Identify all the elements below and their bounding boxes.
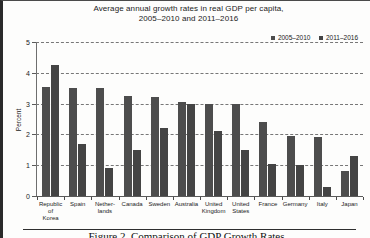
bar-groups: [37, 42, 363, 196]
bar-group: [64, 42, 91, 196]
x-axis-label-line-1: Germany: [283, 201, 308, 207]
y-axis-tick-label: 5: [26, 39, 30, 46]
x-axis-label: UnitedStates: [227, 201, 254, 222]
chart-title: Average annual growth rates in real GDP …: [13, 4, 364, 24]
bar-group: [309, 42, 336, 196]
bar: [214, 131, 222, 196]
bar: [42, 87, 50, 196]
bar-group: [37, 42, 64, 196]
x-axis-tick: [64, 197, 65, 200]
bar: [187, 104, 195, 196]
bar-group: [146, 42, 173, 196]
legend-item-series-1: 2005–2010: [271, 34, 310, 41]
bar-group: [227, 42, 254, 196]
legend-label-series-1: 2005–2010: [278, 34, 311, 41]
bar: [124, 96, 132, 196]
x-axis-label-line-1: Australia: [175, 201, 198, 207]
bar: [287, 136, 295, 196]
x-axis-label: France: [254, 201, 281, 222]
bar: [296, 165, 304, 196]
bar-group: [119, 42, 146, 196]
y-axis-tick: [32, 73, 36, 74]
x-axis-tick: [282, 197, 283, 200]
bar-group: [254, 42, 281, 196]
x-axis-tick: [146, 197, 147, 200]
x-axis-label-line-1: Italy: [317, 201, 328, 207]
x-axis-label: Sweden: [146, 201, 173, 222]
bar: [151, 97, 159, 196]
x-axis-label-line-1: Sweden: [148, 201, 170, 207]
x-axis-label-line-1: Japan: [341, 201, 357, 207]
x-axis-tick: [173, 197, 174, 200]
x-axis-label-line-2: Kingdom: [200, 208, 227, 215]
x-axis-label-line-1: Spain: [70, 201, 85, 207]
bar-group: [173, 42, 200, 196]
x-axis-label-line-1: Republic of: [39, 201, 62, 214]
figure-caption: Figure 2. Comparison of GDP Growth Rates: [3, 230, 370, 238]
y-axis-tick-label: 0: [26, 193, 30, 200]
bar: [160, 128, 168, 196]
y-axis-tick-label: 1: [26, 162, 30, 169]
x-axis-label: Japan: [336, 201, 363, 222]
y-axis-tick: [32, 104, 36, 105]
x-axis-label-line-1: France: [259, 201, 278, 207]
x-axis-labels: Republic ofKoreaSpainNether-landsCanadaS…: [37, 201, 363, 222]
x-axis-label: Spain: [64, 201, 91, 222]
legend-item-series-2: 2011–2016: [319, 34, 358, 41]
x-axis-label: Nether-lands: [91, 201, 118, 222]
bar-group: [336, 42, 363, 196]
bar: [314, 137, 322, 196]
y-axis-tick-label: 2: [26, 131, 30, 138]
bar-group: [282, 42, 309, 196]
x-axis-label-line-2: lands: [91, 208, 118, 215]
x-axis-label: Italy: [309, 201, 336, 222]
bar: [341, 171, 349, 196]
x-axis-tick: [37, 197, 38, 200]
bar: [105, 168, 113, 196]
x-axis-tick: [309, 197, 310, 200]
scanned-page: Average annual growth rates in real GDP …: [0, 0, 370, 238]
x-axis-label-line-2: Korea: [37, 215, 64, 222]
x-axis-label-line-1: Canada: [122, 201, 143, 207]
x-axis-label-line-1: United: [232, 201, 249, 207]
x-axis-tick: [200, 197, 201, 200]
x-axis-tick: [336, 197, 337, 200]
x-axis-label: UnitedKingdom: [200, 201, 227, 222]
bar: [178, 102, 186, 196]
x-axis-label-line-1: Nether-: [95, 201, 115, 207]
legend-swatch-icon: [271, 36, 275, 40]
bar: [78, 144, 86, 196]
bar-group: [91, 42, 118, 196]
x-axis-label: Australia: [173, 201, 200, 222]
bar: [232, 104, 240, 196]
bar: [259, 122, 267, 196]
x-axis-tick: [91, 197, 92, 200]
bar: [350, 156, 358, 196]
legend-label-series-2: 2011–2016: [326, 34, 358, 41]
y-axis-title: Percent: [15, 108, 22, 130]
bar: [323, 187, 331, 196]
bar: [51, 65, 59, 196]
bar: [96, 88, 104, 196]
y-axis-tick: [32, 165, 36, 166]
legend-swatch-icon: [319, 36, 323, 40]
y-axis-tick: [32, 196, 36, 197]
x-axis-tick: [363, 197, 364, 200]
plot-area: 012345: [36, 42, 363, 197]
bar: [268, 164, 276, 196]
x-axis-label: Germany: [282, 201, 309, 222]
bar: [69, 88, 77, 196]
x-axis-label-line-1: United: [205, 201, 222, 207]
x-axis-tick: [254, 197, 255, 200]
x-axis-label: Republic ofKorea: [37, 201, 64, 222]
y-axis-tick: [32, 42, 36, 43]
y-axis-tick: [32, 134, 36, 135]
x-axis-label-line-2: States: [227, 208, 254, 215]
chart-title-line-1: Average annual growth rates in real GDP …: [93, 4, 283, 13]
x-axis-label: Canada: [119, 201, 146, 222]
bar-group: [200, 42, 227, 196]
x-axis-tick: [119, 197, 120, 200]
chart-title-line-2: 2005–2010 and 2011–2016: [13, 14, 364, 24]
bar: [241, 150, 249, 196]
y-axis-tick-label: 4: [26, 69, 30, 76]
